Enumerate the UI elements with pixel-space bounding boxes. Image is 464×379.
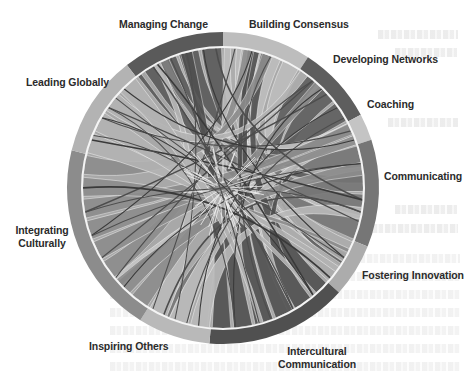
label-intercultural-line1: Intercultural (277, 345, 357, 358)
label-developing-networks: Developing Networks (333, 53, 438, 66)
label-managing-change: Managing Change (119, 18, 208, 31)
label-communicating: Communicating (384, 170, 462, 183)
label-intercultural-communication: Intercultural Communication (277, 345, 357, 371)
label-building-consensus: Building Consensus (249, 18, 349, 31)
label-coaching: Coaching (367, 98, 414, 111)
label-fostering-innovation: Fostering Innovation (362, 269, 464, 282)
label-intercultural-line2: Communication (277, 358, 357, 371)
chord-ribbons (82, 47, 364, 329)
label-integrating-culturally: Integrating Culturally (14, 224, 70, 250)
label-integrating-line1: Integrating (14, 224, 70, 237)
label-inspiring-others: Inspiring Others (89, 340, 169, 353)
label-leading-globally: Leading Globally (26, 76, 109, 89)
label-integrating-line2: Culturally (14, 237, 70, 250)
